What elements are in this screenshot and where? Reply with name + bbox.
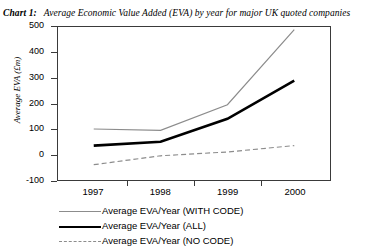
y-tick-label: 500 <box>0 20 44 30</box>
y-tick-label: 200 <box>0 98 44 108</box>
x-tick-label: 1998 <box>130 186 190 197</box>
chart-title: Chart 1:Average Economic Value Added (EV… <box>3 2 389 16</box>
y-tick-label: 300 <box>0 72 44 82</box>
legend-item-label: Average EVA/Year (ALL) <box>102 220 206 231</box>
series-line <box>94 30 295 131</box>
legend-line-sample <box>59 241 101 242</box>
legend-key-icon <box>58 220 102 232</box>
legend-line-sample <box>59 211 101 212</box>
y-tick-label: 100 <box>0 123 44 133</box>
chart-title-text: Average Economic Value Added (EVA) by ye… <box>44 8 350 18</box>
series-line <box>94 81 295 146</box>
legend-key-icon <box>58 205 102 217</box>
legend-line-sample <box>59 226 101 228</box>
legend-item: Average EVA/Year (NO CODE) <box>58 233 388 248</box>
chart-title-tag: Chart 1: <box>3 8 37 18</box>
plot-area <box>57 26 331 181</box>
legend-key-icon <box>58 235 102 247</box>
x-tick-mark <box>261 181 262 186</box>
y-tick-label: 0 <box>0 149 44 159</box>
x-tick-label: 1997 <box>63 186 123 197</box>
legend-item: Average EVA/Year (WITH CODE) <box>58 203 388 218</box>
x-tick-mark <box>127 181 128 186</box>
series-line <box>94 146 295 165</box>
plot-lines <box>58 27 330 180</box>
chart-legend: Average EVA/Year (WITH CODE)Average EVA/… <box>58 203 388 248</box>
x-tick-mark <box>194 181 195 186</box>
y-tick-label: 400 <box>0 46 44 56</box>
legend-item-label: Average EVA/Year (WITH CODE) <box>102 205 243 216</box>
chart-figure: Chart 1:Average Economic Value Added (EV… <box>0 0 390 251</box>
y-tick-label: -100 <box>0 175 44 185</box>
legend-item: Average EVA/Year (ALL) <box>58 218 388 233</box>
legend-item-label: Average EVA/Year (NO CODE) <box>102 235 233 246</box>
x-tick-label: 1999 <box>198 186 258 197</box>
x-tick-label: 2000 <box>265 186 325 197</box>
y-tick-mark <box>51 181 57 182</box>
